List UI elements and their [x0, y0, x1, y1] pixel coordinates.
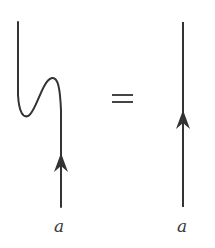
equals-sign [112, 94, 133, 103]
right-strand-label: a [177, 218, 187, 235]
left-wiggly-strand [18, 22, 61, 207]
left-strand-label: a [54, 218, 64, 235]
string-diagram [0, 0, 215, 248]
